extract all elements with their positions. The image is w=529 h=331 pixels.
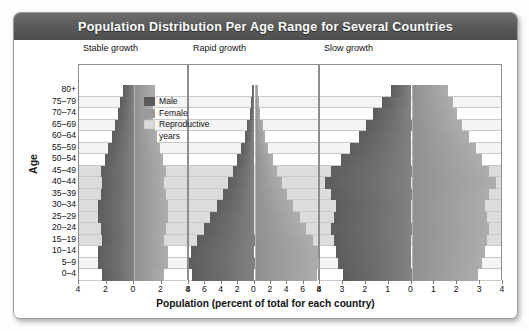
bar-female [412,143,476,155]
panel-header: Stable growth [83,43,138,53]
bar-female [255,154,273,166]
bar-female [412,223,490,235]
bar-female [134,177,164,189]
y-tick-label: 75–79 [52,96,76,108]
x-tick-label: 4 [494,284,510,294]
y-tick-label: 55–59 [52,142,76,154]
y-tick-label: 50–54 [52,153,76,165]
bar-row [320,189,501,201]
bar-row [320,246,501,258]
bar-row [189,200,318,212]
bar-male [325,177,412,189]
bar-female [255,131,266,143]
page-title: Population Distribution Per Age Range fo… [78,20,453,34]
bar-male [112,131,134,143]
x-tick-label: 2 [357,284,373,294]
bar-female [255,235,313,247]
bar-female [134,166,166,178]
x-tick-label: 3 [471,284,487,294]
bar-row [320,258,501,270]
bar-male [359,131,412,143]
bar-male [102,177,134,189]
bar-male [334,235,412,247]
y-tick-label: 65–69 [52,119,76,131]
bar-female [255,258,321,270]
y-tick-label: 25–29 [52,211,76,223]
bar-row [320,120,501,132]
bar-female [255,200,293,212]
bar-male [223,189,255,201]
y-tick-label: 15–19 [52,234,76,246]
y-tick-label: 30–34 [52,199,76,211]
bar-female [255,189,288,201]
bar-row [79,177,187,189]
bar-male [241,143,254,155]
x-tick-label: 1 [380,284,396,294]
legend-swatch-male [144,97,155,106]
bar-male [204,223,255,235]
bar-row [189,246,318,258]
legend-swatch-reproductive [144,120,155,129]
chart-legend: Male Female Reproductive years [144,96,210,142]
bar-female [412,85,449,97]
bar-male [101,189,134,201]
panel-center-axis [255,85,256,281]
x-tick-label: 2 [262,284,278,294]
bar-male [331,223,411,235]
chart-title-bar: Population Distribution Per Age Range fo… [14,13,517,40]
x-tick-label: 2 [98,284,114,294]
bar-male [228,177,254,189]
bar-row [189,223,318,235]
bar-male [115,120,134,132]
y-tick-label: 5–9 [62,257,76,269]
bar-male [217,200,255,212]
y-tick-label: 70–74 [52,107,76,119]
bar-female [412,258,483,270]
panel-header: Slow growth [324,43,373,53]
bar-row [79,258,187,270]
bar-male [189,258,255,270]
bar-female [255,166,277,178]
bar-row [320,223,501,235]
bar-row [189,177,318,189]
y-tick-label: 10–14 [52,245,76,257]
bar-row [189,235,318,247]
bar-row [79,200,187,212]
x-tick-label: 8 [180,284,196,294]
bar-male [341,154,412,166]
panel-center-axis [412,85,413,281]
bar-row [320,212,501,224]
x-axis-ticks: 42024864202468432101234 [78,280,502,296]
bar-male [120,97,134,109]
bar-row [79,223,187,235]
bar-female [134,235,164,247]
x-axis-label: Population (percent of total for each co… [14,298,517,309]
bar-row [189,154,318,166]
bar-row [320,235,501,247]
bar-male [331,189,411,201]
y-tick-label: 20–24 [52,222,76,234]
bar-female [255,120,263,132]
panel-slow-growth: Slow growth [319,64,502,280]
bar-male [366,120,412,132]
bar-male [334,212,412,224]
bar-female [255,177,282,189]
bar-male [247,120,254,132]
bar-male [336,246,411,258]
bar-female [412,166,490,178]
y-axis-tick-labels: 80+75–7970–7465–6960–6455–5950–5445–4940… [40,84,76,280]
bar-female [412,200,485,212]
bar-female [412,154,483,166]
x-tick-label: 4 [278,284,294,294]
bar-female [255,246,319,258]
panel-rows [320,85,501,281]
bar-row [320,177,501,189]
y-tick-label: 80+ [61,84,76,96]
bar-female [412,97,453,109]
bar-female [134,143,160,155]
legend-swatch-female [144,109,155,118]
x-tick-label: 6 [295,284,311,294]
bar-row [79,85,187,97]
legend-item-male: Male [144,96,210,108]
bar-male [191,246,255,258]
